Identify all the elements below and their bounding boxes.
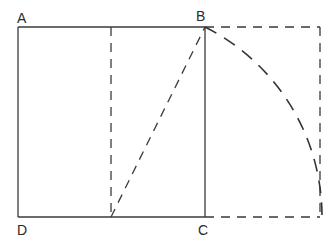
label-D: D <box>17 222 27 238</box>
diagonal-to-B <box>111 27 205 217</box>
golden-arc <box>205 27 322 215</box>
label-A: A <box>17 10 27 26</box>
label-C: C <box>198 222 208 238</box>
label-B: B <box>196 8 205 24</box>
golden-rectangle-diagram: A B C D <box>0 0 336 245</box>
